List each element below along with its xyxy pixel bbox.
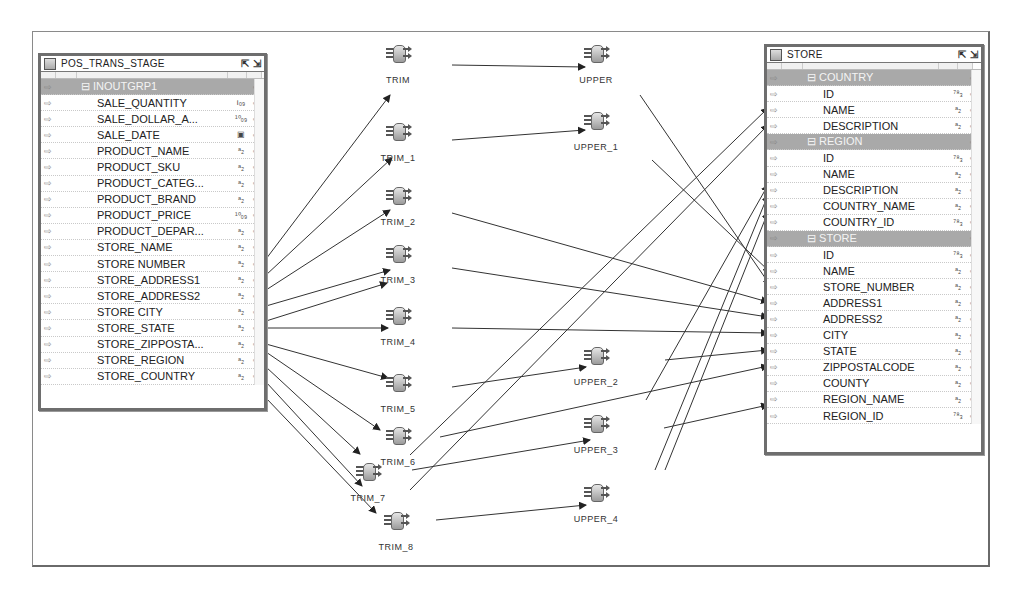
group-row-store[interactable]: ⇨⊟ STORE⇨ — [767, 231, 981, 247]
datatype-icon: ᵃ₂ — [949, 363, 967, 372]
port-name: SALE_DATE — [55, 129, 232, 141]
port-name: COUNTY — [781, 377, 949, 389]
minimize-icon[interactable]: ⇲ — [970, 49, 978, 60]
upper-transform-node[interactable]: UPPER_2 — [561, 345, 631, 387]
port-row[interactable]: ⇨PRODUCT_DEPAR...ᵃ₂⇨ — [41, 224, 264, 240]
port-row[interactable]: ⇨STORE NUMBERᵃ₂⇨ — [41, 256, 264, 272]
expression-transform-icon — [385, 425, 411, 445]
port-name: STORE_COUNTRY — [55, 370, 232, 382]
trim-transform-node[interactable]: TRIM_2 — [363, 185, 433, 227]
datatype-icon: ᵃ₂ — [949, 395, 967, 404]
port-row[interactable]: ⇨STORE_COUNTRYᵃ₂⇨ — [41, 369, 264, 385]
target-table-title: STORE — [787, 49, 955, 60]
target-table-scrollbar[interactable] — [971, 70, 981, 424]
trim-transform-node[interactable]: TRIM_7 — [333, 461, 403, 503]
upper-transform-node[interactable]: UPPER_3 — [561, 413, 631, 455]
port-row[interactable]: ⇨STORE_NAMEᵃ₂⇨ — [41, 240, 264, 256]
trim-transform-node[interactable]: TRIM — [363, 43, 433, 85]
port-row[interactable]: ⇨STORE_ZIPPOSTA...ᵃ₂⇨ — [41, 337, 264, 353]
group-label: ⊟ STORE — [781, 232, 949, 245]
group-row-region[interactable]: ⇨⊟ REGION⇨ — [767, 134, 981, 150]
port-row[interactable]: ⇨REGION_ID⁷⁸₃⇨ — [767, 408, 981, 424]
trim-transform-node[interactable]: TRIM_8 — [361, 510, 431, 552]
maximize-icon[interactable]: ⇱ — [241, 58, 249, 69]
port-row[interactable]: ⇨NAMEᵃ₂⇨ — [767, 102, 981, 118]
port-row[interactable]: ⇨COUNTRY_ID⁷⁸₃⇨ — [767, 215, 981, 231]
port-row[interactable]: ⇨STORE_REGIONᵃ₂⇨ — [41, 353, 264, 369]
trim-transform-node[interactable]: TRIM_1 — [363, 121, 433, 163]
trim-transform-node[interactable]: TRIM_5 — [363, 372, 433, 414]
port-row[interactable]: ⇨PRODUCT_NAMEᵃ₂⇨ — [41, 143, 264, 159]
datatype-icon: ᵃ₂ — [232, 340, 250, 349]
port-row[interactable]: ⇨STATEᵃ₂⇨ — [767, 344, 981, 360]
target-table-icon — [770, 49, 782, 61]
port-name: NAME — [781, 168, 949, 180]
upper-transform-node[interactable]: UPPER — [561, 43, 631, 85]
transform-label: TRIM_4 — [363, 337, 433, 347]
port-row[interactable]: ⇨STORE_NUMBERᵃ₂⇨ — [767, 279, 981, 295]
source-table-scrollbar[interactable] — [254, 79, 264, 385]
port-row[interactable]: ⇨ADDRESS2ᵃ₂⇨ — [767, 311, 981, 327]
datatype-icon: ᵃ₂ — [949, 266, 967, 275]
port-row[interactable]: ⇨SALE_DOLLAR_A...¹⁰₀₉⇨ — [41, 111, 264, 127]
port-row[interactable]: ⇨DESCRIPTIONᵃ₂⇨ — [767, 183, 981, 199]
port-in-icon: ⇨ — [767, 282, 781, 292]
minimize-icon[interactable]: ⇲ — [253, 58, 261, 69]
port-name: REGION_NAME — [781, 393, 949, 405]
port-row[interactable]: ⇨REGION_NAMEᵃ₂⇨ — [767, 392, 981, 408]
expression-transform-icon — [385, 43, 411, 63]
upper-transform-node[interactable]: UPPER_1 — [561, 110, 631, 152]
transform-label: TRIM_1 — [363, 153, 433, 163]
transform-label: UPPER_1 — [561, 142, 631, 152]
port-row[interactable]: ⇨DESCRIPTIONᵃ₂⇨ — [767, 118, 981, 134]
port-in-icon: ⇨ — [767, 362, 781, 372]
port-row[interactable]: ⇨ID⁷⁸₃⇨ — [767, 86, 981, 102]
target-table-store[interactable]: STORE ⇱ ⇲ ⇨⊟ COUNTRY⇨⇨ID⁷⁸₃⇨⇨NAMEᵃ₂⇨⇨DES… — [764, 44, 984, 455]
group-row-inoutgrp1[interactable]: ⇨ ⊟ INOUTGRP1 ⇨ — [41, 79, 264, 95]
port-name: PRODUCT_BRAND — [55, 193, 232, 205]
transform-label: TRIM_3 — [363, 275, 433, 285]
port-name: DESCRIPTION — [781, 184, 949, 196]
datatype-icon: ᵃ₂ — [949, 298, 967, 307]
datatype-icon: ᵃ₂ — [232, 291, 250, 300]
port-name: STORE_NUMBER — [781, 281, 949, 293]
port-name: ID — [781, 152, 949, 164]
upper-transform-node[interactable]: UPPER_4 — [561, 482, 631, 524]
port-row[interactable]: ⇨PRODUCT_CATEG...ᵃ₂⇨ — [41, 176, 264, 192]
port-row[interactable]: ⇨COUNTRY_NAMEᵃ₂⇨ — [767, 199, 981, 215]
port-row[interactable]: ⇨PRODUCT_PRICE¹⁰₀₉⇨ — [41, 208, 264, 224]
port-in-icon: ⇨ — [41, 178, 55, 188]
port-row[interactable]: ⇨SALE_DATE▣⇨ — [41, 127, 264, 143]
trim-transform-node[interactable]: TRIM_3 — [363, 243, 433, 285]
target-table-title-bar[interactable]: STORE ⇱ ⇲ — [767, 47, 981, 63]
port-row[interactable]: ⇨PRODUCT_BRANDᵃ₂⇨ — [41, 192, 264, 208]
port-row[interactable]: ⇨CITYᵃ₂⇨ — [767, 328, 981, 344]
port-in-icon: ⇨ — [41, 323, 55, 333]
expression-transform-icon — [385, 121, 411, 141]
port-row[interactable]: ⇨ID⁷⁸₃⇨ — [767, 150, 981, 166]
datatype-icon: ᵃ₂ — [949, 186, 967, 195]
port-row[interactable]: ⇨PRODUCT_SKUᵃ₂⇨ — [41, 159, 264, 175]
datatype-icon: ᵃ₂ — [949, 379, 967, 388]
port-row[interactable]: ⇨COUNTYᵃ₂⇨ — [767, 376, 981, 392]
expression-transform-icon — [583, 43, 609, 63]
group-row-country[interactable]: ⇨⊟ COUNTRY⇨ — [767, 70, 981, 86]
port-row[interactable]: ⇨STORE_ADDRESS2ᵃ₂⇨ — [41, 288, 264, 304]
datatype-icon: ▣ — [232, 130, 250, 139]
port-row[interactable]: ⇨ADDRESS1ᵃ₂⇨ — [767, 295, 981, 311]
port-row[interactable]: ⇨STORE_STATEᵃ₂⇨ — [41, 320, 264, 336]
port-row[interactable]: ⇨STORE_ADDRESS1ᵃ₂⇨ — [41, 272, 264, 288]
source-table-title-bar[interactable]: POS_TRANS_STAGE ⇱ ⇲ — [41, 56, 264, 72]
source-table-pos-trans-stage[interactable]: POS_TRANS_STAGE ⇱ ⇲ ⇨ ⊟ INOUTGRP1 ⇨ ⇨SAL… — [38, 53, 267, 411]
port-row[interactable]: ⇨NAMEᵃ₂⇨ — [767, 263, 981, 279]
maximize-icon[interactable]: ⇱ — [958, 49, 966, 60]
port-row[interactable]: ⇨ZIPPOSTALCODEᵃ₂⇨ — [767, 360, 981, 376]
trim-transform-node[interactable]: TRIM_4 — [363, 305, 433, 347]
source-table-title: POS_TRANS_STAGE — [61, 58, 238, 69]
port-row[interactable]: ⇨NAMEᵃ₂⇨ — [767, 167, 981, 183]
port-row[interactable]: ⇨SALE_QUANTITYi₀₉⇨ — [41, 95, 264, 111]
port-row[interactable]: ⇨ID⁷⁸₃⇨ — [767, 247, 981, 263]
port-name: STORE_NAME — [55, 241, 232, 253]
port-in-icon: ⇨ — [41, 82, 55, 92]
port-row[interactable]: ⇨STORE CITYᵃ₂⇨ — [41, 304, 264, 320]
